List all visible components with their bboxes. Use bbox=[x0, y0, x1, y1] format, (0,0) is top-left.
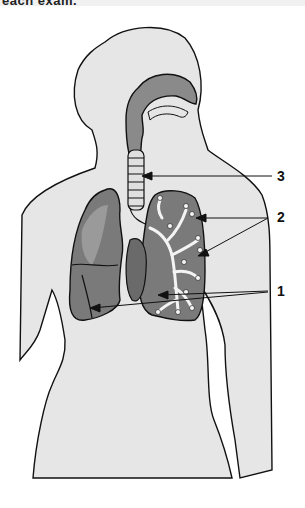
label-3: 3 bbox=[277, 168, 285, 184]
respiratory-diagram bbox=[0, 0, 305, 508]
label-2: 2 bbox=[277, 209, 285, 225]
label-1: 1 bbox=[277, 283, 285, 299]
heart bbox=[126, 239, 146, 301]
